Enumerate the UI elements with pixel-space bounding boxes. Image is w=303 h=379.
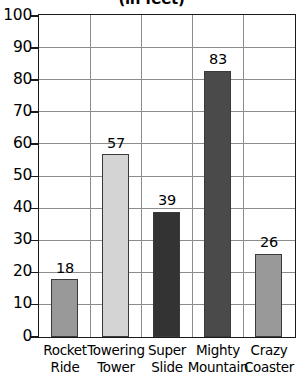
- category-separator: [141, 15, 142, 337]
- y-axis-tick-mark: [31, 143, 38, 145]
- bar: [255, 254, 282, 337]
- y-axis-tick-label: 0: [0, 329, 32, 344]
- y-axis-tick-label: 90: [0, 40, 32, 55]
- y-axis-tick-label: 30: [0, 232, 32, 247]
- bar: [204, 71, 231, 337]
- bar-value-label: 57: [91, 136, 142, 151]
- y-axis-tick-label: 100: [0, 8, 32, 23]
- x-axis-category-label: CrazyCoaster: [238, 342, 301, 376]
- bar: [153, 212, 180, 337]
- gridline: [39, 79, 295, 80]
- bar: [102, 154, 129, 337]
- y-axis-tick-label: 60: [0, 136, 32, 151]
- y-axis-tick-label: 40: [0, 200, 32, 215]
- bar: [51, 279, 78, 337]
- gridline: [39, 111, 295, 112]
- bar-value-label: 18: [40, 261, 91, 276]
- y-axis-tick-mark: [31, 304, 38, 306]
- y-axis-tick-label: 80: [0, 72, 32, 87]
- y-axis-tick-mark: [31, 240, 38, 242]
- y-axis-tick-mark: [31, 111, 38, 113]
- y-axis-tick-label: 20: [0, 264, 32, 279]
- y-axis-tick-mark: [31, 15, 38, 17]
- y-axis-tick-mark: [31, 208, 38, 210]
- y-axis-tick-mark: [31, 47, 38, 49]
- y-axis-tick-label: 10: [0, 296, 32, 311]
- gridline: [39, 47, 295, 48]
- y-axis-tick-label: 70: [0, 104, 32, 119]
- y-axis-tick-mark: [31, 79, 38, 81]
- y-axis-tick-mark: [31, 272, 38, 274]
- bar-value-label: 39: [142, 193, 193, 208]
- y-axis-tick-label: 50: [0, 168, 32, 183]
- chart-title: (in feet): [0, 0, 303, 8]
- plot-area: [38, 14, 296, 338]
- bar-value-label: 26: [244, 235, 295, 250]
- x-axis-label-line: Crazy: [238, 342, 301, 359]
- bar-chart: (in feet) 1009080706050403020100 1857398…: [0, 0, 303, 379]
- y-axis-tick-mark: [31, 336, 38, 338]
- category-separator: [90, 15, 91, 337]
- bar-value-label: 83: [193, 52, 244, 67]
- gridline: [39, 143, 295, 144]
- gridline: [39, 176, 295, 177]
- y-axis-tick-mark: [31, 176, 38, 178]
- x-axis-label-line: Coaster: [238, 359, 301, 376]
